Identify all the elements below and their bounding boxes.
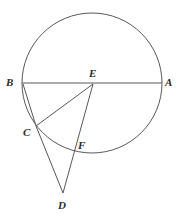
point-label-A: A <box>165 77 172 88</box>
point-label-E: E <box>89 68 96 79</box>
segment-CD <box>36 126 63 193</box>
point-label-F: F <box>78 140 85 151</box>
point-label-C: C <box>23 127 30 138</box>
segment-CE <box>36 84 93 126</box>
geometry-figure: A B C D E F <box>0 0 177 216</box>
point-label-B: B <box>6 77 13 88</box>
point-label-D: D <box>58 200 66 211</box>
geometry-canvas <box>0 0 177 216</box>
segment-BC <box>23 84 36 126</box>
